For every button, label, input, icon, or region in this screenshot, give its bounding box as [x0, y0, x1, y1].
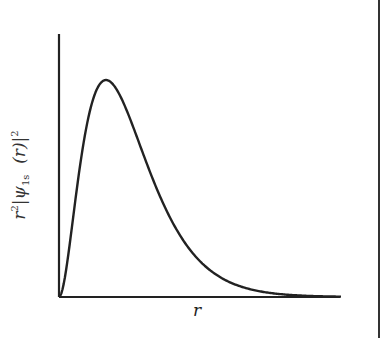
y-axis-label: r2|ψ1s (r)|2	[9, 130, 31, 219]
page-border	[378, 0, 380, 338]
probability-curve	[59, 80, 341, 297]
x-axis-label: r	[193, 300, 201, 320]
radial-probability-chart	[0, 0, 382, 338]
